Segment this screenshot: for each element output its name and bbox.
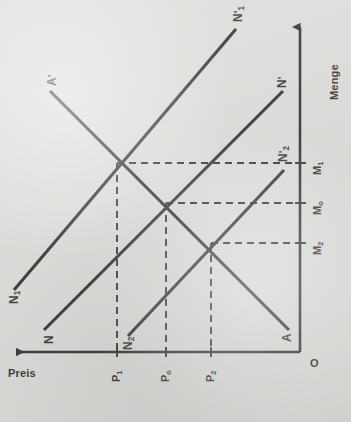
curve-label-N2prime-sub: 2 [282, 146, 291, 151]
curve-A-prime-to-A [50, 91, 289, 330]
tick-label-M0-base: M [311, 206, 323, 215]
tick-label-P2-base: P [204, 375, 216, 382]
tick-label-P1-sub: 1 [115, 371, 124, 375]
curve-label-N1: N1 [8, 291, 20, 304]
curve-label-N1prime-sub: 1 [237, 6, 246, 11]
tick-label-P1-base: P [110, 375, 122, 382]
curve-label-N-prime: N' [276, 77, 288, 88]
tick-label-M2-base: M [311, 246, 323, 255]
curve-label-A-prime: A' [46, 75, 58, 86]
tick-label-P0: Po [160, 370, 171, 382]
curve-label-Aprime-base: A [45, 77, 59, 86]
tick-label-P1: P1 [111, 371, 122, 383]
economics-diagram-svg [0, 0, 351, 422]
curve-label-N1prime-base: N [231, 13, 245, 22]
diagram-canvas: Menge Preis O P1 Po P2 M1 Mo M2 N N' N1 … [0, 0, 351, 422]
tick-label-M1-base: M [311, 166, 323, 175]
curve-label-N1-sub: 1 [13, 291, 22, 296]
curve-label-A-base: A [280, 333, 294, 342]
curve-label-N1prime-mark: ' [232, 11, 244, 14]
tick-label-M0: Mo [312, 201, 323, 215]
curve-N2-to-N2-prime [128, 170, 284, 336]
curve-label-N2-base: N [121, 341, 135, 350]
curve-label-N2prime-base: N [276, 153, 290, 162]
menge-axis-label: Menge [329, 64, 340, 100]
curve-label-N2prime-mark: ' [277, 151, 289, 154]
tick-label-M1-sub: 1 [316, 162, 325, 166]
curve-label-N: N [43, 335, 55, 344]
curve-label-N2-sub: 2 [127, 337, 136, 342]
curve-label-N1-prime: N'1 [232, 6, 244, 22]
curve-label-A: A [281, 333, 293, 342]
tick-label-M2: M2 [312, 242, 323, 255]
tick-label-M2-sub: 2 [316, 242, 325, 246]
tick-label-P0-base: P [159, 375, 171, 382]
tick-label-M1: M1 [312, 162, 323, 175]
curve-label-Nprime-mark: ' [276, 77, 288, 80]
curve-label-N1-base: N [7, 295, 21, 304]
tick-label-P2-sub: 2 [209, 371, 218, 375]
tick-label-M0-sub: o [316, 201, 325, 206]
tick-label-P0-sub: o [164, 370, 173, 375]
curve-label-N2-prime: N'2 [277, 146, 289, 162]
tick-label-P2: P2 [205, 371, 216, 383]
curve-label-N2: N2 [122, 337, 134, 350]
preis-axis-label: Preis [8, 368, 36, 379]
guide-lines-group [117, 163, 300, 352]
origin-label: O [310, 358, 319, 369]
curve-label-N-base: N [42, 335, 56, 344]
curve-label-Nprime-base: N [275, 79, 289, 88]
curve-label-Aprime-mark: ' [46, 75, 58, 78]
